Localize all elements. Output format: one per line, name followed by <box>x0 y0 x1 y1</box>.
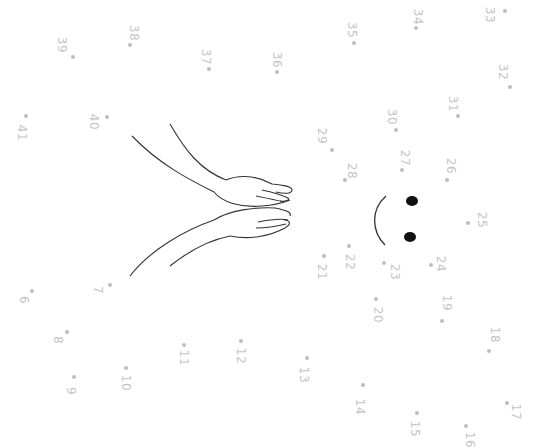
dot-label-30: 30 <box>385 109 399 125</box>
dot-label-10: 10 <box>119 375 133 391</box>
dot-20 <box>374 297 378 301</box>
dot-33 <box>503 9 507 13</box>
dot-14 <box>361 383 365 387</box>
dot-label-23: 23 <box>388 264 402 280</box>
dot-39 <box>71 55 75 59</box>
dot-8 <box>65 330 69 334</box>
dot-label-17: 17 <box>509 404 523 420</box>
dot-label-8: 8 <box>51 336 65 344</box>
upper-hand-drawing <box>132 124 292 206</box>
dot-label-38: 38 <box>127 25 141 41</box>
dot-label-24: 24 <box>434 256 448 272</box>
dot-30 <box>394 128 398 132</box>
dot-label-40: 40 <box>87 114 101 130</box>
dot-37 <box>207 67 211 71</box>
dot-38 <box>128 43 132 47</box>
dot-31 <box>456 114 460 118</box>
dot-23 <box>382 261 386 265</box>
dot-label-13: 13 <box>297 367 311 383</box>
dot-11 <box>182 343 186 347</box>
dot-label-32: 32 <box>496 64 510 80</box>
dot-25 <box>466 221 470 225</box>
dot-label-25: 25 <box>475 212 489 228</box>
dot-label-22: 22 <box>343 254 357 270</box>
dot-label-15: 15 <box>408 421 422 437</box>
dot-26 <box>445 178 449 182</box>
dot-32 <box>508 85 512 89</box>
dot-label-31: 31 <box>446 96 460 112</box>
dot-24 <box>429 263 433 267</box>
dot-label-18: 18 <box>488 327 502 343</box>
lower-hand-drawing <box>130 208 290 276</box>
dot-41 <box>24 114 28 118</box>
dot-27 <box>400 168 404 172</box>
dot-13 <box>305 356 309 360</box>
dot-label-41: 41 <box>15 125 29 141</box>
dot-label-20: 20 <box>371 307 385 323</box>
dot-label-7: 7 <box>91 286 105 294</box>
dot-label-16: 16 <box>463 432 477 448</box>
dot-label-9: 9 <box>64 387 78 395</box>
dot-22 <box>347 244 351 248</box>
dot-15 <box>415 411 419 415</box>
dot-label-28: 28 <box>345 163 359 179</box>
dot-18 <box>487 349 491 353</box>
dot-label-33: 33 <box>483 7 497 23</box>
eye-right <box>404 232 416 242</box>
dot-label-34: 34 <box>411 9 425 25</box>
dot-label-27: 27 <box>398 150 412 166</box>
dot-label-39: 39 <box>55 37 69 53</box>
dot-label-11: 11 <box>177 350 191 366</box>
dot-10 <box>124 366 128 370</box>
dot-40 <box>105 115 109 119</box>
dot-6 <box>30 289 34 293</box>
dot-label-21: 21 <box>315 264 329 280</box>
dot-9 <box>72 375 76 379</box>
dot-19 <box>440 319 444 323</box>
dot-29 <box>330 148 334 152</box>
dot-36 <box>275 70 279 74</box>
dot-16 <box>464 424 468 428</box>
eye-left <box>406 196 418 206</box>
smile-mouth <box>375 196 386 245</box>
dot-label-12: 12 <box>234 348 248 364</box>
dot-7 <box>108 283 112 287</box>
dot-label-6: 6 <box>17 296 31 304</box>
dot-35 <box>352 41 356 45</box>
dot-label-29: 29 <box>315 128 329 144</box>
dot-21 <box>322 254 326 258</box>
dot-label-35: 35 <box>345 22 359 38</box>
dot-12 <box>239 339 243 343</box>
dot-label-37: 37 <box>199 49 213 65</box>
dot-label-26: 26 <box>444 158 458 174</box>
dot-label-14: 14 <box>353 399 367 415</box>
dot-34 <box>414 26 418 30</box>
dot-label-36: 36 <box>270 52 284 68</box>
dot-label-19: 19 <box>440 295 454 311</box>
